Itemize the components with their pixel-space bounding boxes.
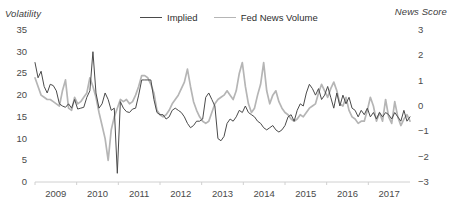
volatility-news-score-chart: Volatility News Score Implied Fed News V…	[0, 0, 451, 210]
series-line-implied	[35, 52, 410, 174]
plot-area	[0, 0, 451, 210]
